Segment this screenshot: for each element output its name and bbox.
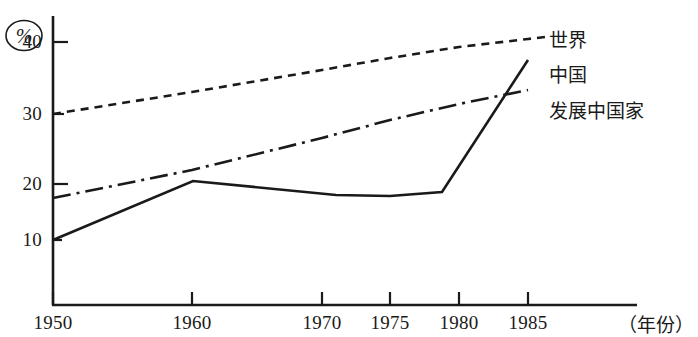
x-tick-label-1975: 1975 [355,312,425,334]
chart-container: % 40 30 20 10 1950 1960 1970 1975 [0,0,698,337]
x-tick-label-1970: 1970 [287,312,357,334]
x-axis-title: （年份） [618,310,694,337]
x-tick-label-1960: 1960 [157,312,227,334]
y-tick-label-20: 20 [0,173,42,195]
x-tick-label-1950: 1950 [18,312,88,334]
y-tick-label-40: 40 [0,31,42,53]
series-line-developing-countries [53,90,528,198]
y-tick-label-10: 10 [0,229,42,251]
y-tick-label-30: 30 [0,103,42,125]
legend-label-developing-countries: 发展中国家 [549,96,644,123]
x-tick-label-1980: 1980 [424,312,494,334]
x-axis-ticks [53,292,528,305]
y-axis-ticks [53,42,68,240]
legend-label-world: 世界 [549,25,587,52]
x-tick-label-1985: 1985 [493,312,563,334]
legend-label-china: 中国 [549,60,587,87]
series-line-china [53,60,528,240]
chart-plot-area [0,0,698,337]
